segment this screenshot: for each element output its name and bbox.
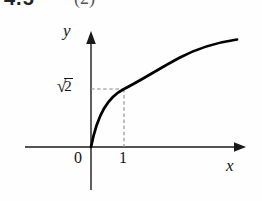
radical-expression: √2 bbox=[57, 78, 73, 95]
y-axis-label: y bbox=[63, 22, 71, 39]
x-axis-arrow-icon bbox=[234, 142, 246, 152]
x-tick-label-1: 1 bbox=[119, 150, 127, 166]
function-curve bbox=[91, 40, 237, 148]
x-axis-label: x bbox=[226, 157, 234, 174]
origin-label: 0 bbox=[74, 150, 82, 166]
graph-figure: 4.5 (2) y x 0 1 √2 bbox=[0, 0, 262, 201]
radicand-value: 2 bbox=[64, 78, 73, 94]
y-tick-label-sqrt2: √2 bbox=[57, 78, 73, 95]
coordinate-plot bbox=[0, 0, 262, 201]
y-axis-arrow-icon bbox=[86, 31, 96, 44]
